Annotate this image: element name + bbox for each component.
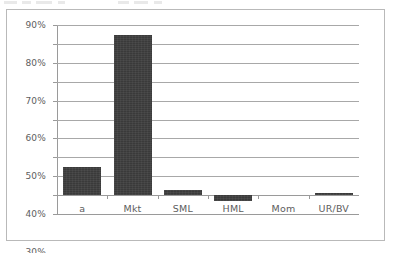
gridline [57,25,359,26]
y-axis-tick-label: 70% [25,96,46,106]
x-axis-label-mkt: Mkt [123,203,141,214]
y-axis-tick: 60% [53,82,57,83]
bar-mkt [114,35,152,195]
x-axis-label-sml: SML [173,203,193,214]
x-axis-label-ur-bv: UR/BV [319,203,349,214]
plot-area: 90%80%70%60%50%40%30%20%10%0%-10% aMktSM… [57,25,359,214]
scan-smudge [154,1,162,4]
scan-smudge [22,1,31,4]
y-axis-tick: 40% [53,120,57,121]
y-axis-tick: 20% [53,157,57,158]
bar-sml [164,190,202,195]
gridline [57,63,359,64]
gridline [57,138,359,139]
gridline [57,82,359,83]
y-axis-tick: 30% [53,138,57,139]
chart-figure-frame: 90%80%70%60%50%40%30%20%10%0%-10% aMktSM… [6,9,385,241]
y-axis-tick-label: 30% [25,247,46,253]
y-axis-tick-label: 90% [25,20,46,30]
y-axis-tick: 80% [53,44,57,45]
y-axis-tick: 90% [53,25,57,26]
y-axis-tick-label: 50% [25,171,46,181]
gridline [57,44,359,45]
x-axis-label-a: a [79,203,85,214]
y-axis-tick: -10% [53,214,57,215]
scan-smudge [134,1,148,4]
gridline [57,157,359,158]
x-axis-tick [107,195,108,199]
bar-a [63,167,101,195]
gridline [57,120,359,121]
bar-ur-bv [315,193,353,195]
x-axis-label-mom: Mom [272,203,296,214]
y-axis-tick: 10% [53,176,57,177]
y-axis-tick-label: 60% [25,133,46,143]
x-axis-label-hml: HML [223,203,244,214]
y-axis-tick-label: 40% [25,209,46,219]
gridline [57,214,359,215]
y-axis-tick: 0% [53,195,57,196]
bar-hml [214,195,252,201]
x-axis-tick [158,195,159,199]
y-axis-tick-label: 80% [25,58,46,68]
scan-artifact-strip [0,0,399,7]
x-axis-tick [258,195,259,199]
scan-smudge [118,1,129,4]
gridline [57,101,359,102]
scan-smudge [36,1,52,4]
gridline [57,176,359,177]
y-axis-tick: 70% [53,63,57,64]
y-axis-tick: 50% [53,101,57,102]
scan-smudge [4,1,17,4]
scan-smudge [58,1,65,4]
x-axis-tick [309,195,310,199]
x-axis-tick [208,195,209,199]
